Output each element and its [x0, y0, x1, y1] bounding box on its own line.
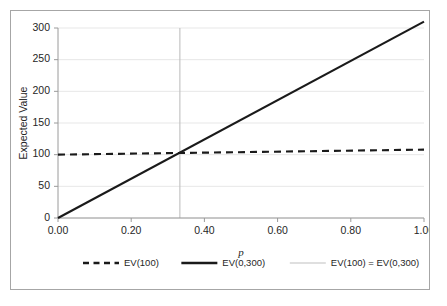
y-tick-label: 300: [32, 21, 50, 33]
data-series-group: [58, 22, 424, 218]
x-tick-label: 0.80: [341, 224, 362, 236]
y-tick-label: 200: [32, 84, 50, 96]
y-tick-label: 0: [44, 211, 50, 223]
x-axis-ticks: 0.000.200.400.600.801.00: [48, 218, 429, 236]
series-line-solid: [58, 22, 424, 218]
x-tick-label: 0.40: [194, 224, 215, 236]
x-tick-label: 1.00: [414, 224, 429, 236]
y-tick-label: 150: [32, 116, 50, 128]
y-tick-label: 50: [38, 179, 50, 191]
y-tick-label: 100: [32, 147, 50, 159]
legend-label: EV(100) = EV(0,300): [331, 257, 419, 268]
legend-label: EV(0,300): [222, 257, 265, 268]
legend-label: EV(100): [124, 257, 159, 268]
y-axis-ticks: 050100150200250300: [32, 21, 58, 223]
x-tick-label: 0.60: [267, 224, 288, 236]
chart-figure-container: 050100150200250300 0.000.200.400.600.801…: [10, 10, 430, 290]
x-tick-label: 0.20: [121, 224, 142, 236]
y-axis-title: Expected Value: [17, 86, 29, 159]
expected-value-line-chart: 050100150200250300 0.000.200.400.600.801…: [11, 11, 429, 289]
x-tick-label: 0.00: [48, 224, 69, 236]
chart-legend: EV(100)EV(0,300)EV(100) = EV(0,300): [83, 257, 419, 268]
series-line-dashed: [58, 150, 424, 155]
y-tick-label: 250: [32, 52, 50, 64]
